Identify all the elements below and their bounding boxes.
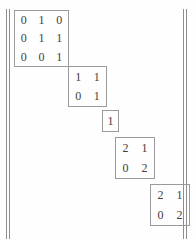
block-row: 0 0 1 xyxy=(15,48,68,66)
matrix-cell: 0 xyxy=(15,11,33,29)
matrix-cell: 1 xyxy=(88,67,107,87)
block-grid: 2 1 0 2 xyxy=(116,138,154,178)
matrix-cell: 2 xyxy=(135,158,154,178)
matrix-cell: 0 xyxy=(33,48,51,66)
matrix-block: 2 1 0 2 xyxy=(150,184,190,226)
matrix-cell: 1 xyxy=(33,29,51,47)
block-diagonal-matrix-figure: 0 1 0 0 1 1 0 0 1 1 1 0 1 xyxy=(0,0,196,241)
block-grid: 0 1 0 0 1 1 0 0 1 xyxy=(15,11,68,66)
matrix-delimiter-left xyxy=(6,9,11,239)
block-row: 0 1 xyxy=(69,87,106,107)
block-row: 2 1 xyxy=(151,185,189,205)
block-row: 0 2 xyxy=(151,205,189,225)
block-row: 0 1 0 xyxy=(15,11,68,29)
matrix-cell: 0 xyxy=(50,11,68,29)
matrix-block: 0 1 0 0 1 1 0 0 1 xyxy=(14,10,69,67)
block-row: 0 1 1 xyxy=(15,29,68,47)
matrix-cell: 0 xyxy=(151,205,170,225)
matrix-cell: 2 xyxy=(116,138,135,158)
matrix-cell: 1 xyxy=(50,48,68,66)
matrix-cell: 1 xyxy=(69,67,88,87)
block-row: 1 xyxy=(103,111,118,131)
matrix-cell: 2 xyxy=(170,205,189,225)
caption-fragment xyxy=(2,0,62,7)
delimiter-bar-inner xyxy=(9,9,10,239)
matrix-cell: 1 xyxy=(135,138,154,158)
block-row: 2 1 xyxy=(116,138,154,158)
block-grid: 2 1 0 2 xyxy=(151,185,189,225)
matrix-block: 1 1 0 1 xyxy=(68,66,107,107)
block-grid: 1 1 0 1 xyxy=(69,67,106,106)
matrix-cell: 0 xyxy=(15,29,33,47)
matrix-cell: 0 xyxy=(69,87,88,107)
matrix-block: 2 1 0 2 xyxy=(115,137,155,179)
matrix-cell: 0 xyxy=(15,48,33,66)
matrix-cell: 1 xyxy=(50,29,68,47)
block-grid: 1 xyxy=(103,111,118,131)
block-row: 1 1 xyxy=(69,67,106,87)
matrix-cell: 1 xyxy=(170,185,189,205)
delimiter-bar-outer xyxy=(6,9,7,239)
matrix-cell: 2 xyxy=(151,185,170,205)
matrix-block: 1 xyxy=(102,110,119,132)
matrix-cell: 0 xyxy=(116,158,135,178)
matrix-cell: 1 xyxy=(103,111,118,131)
matrix-cell: 1 xyxy=(88,87,107,107)
matrix-cell: 1 xyxy=(33,11,51,29)
block-row: 0 2 xyxy=(116,158,154,178)
